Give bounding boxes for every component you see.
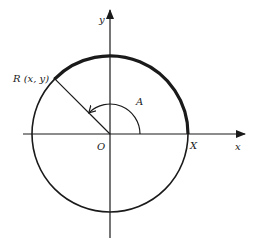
- x-intercept-label: X: [190, 141, 197, 151]
- y-axis-label: y: [99, 15, 105, 25]
- arc-x-to-r: [55, 56, 188, 134]
- origin-label: O: [97, 142, 105, 152]
- x-axis-label: x: [235, 142, 241, 152]
- angle-arc-a: [89, 104, 140, 134]
- angle-a-label: A: [136, 97, 143, 107]
- point-r-label: R (x, y): [13, 74, 49, 84]
- radius-line-or: [55, 79, 110, 134]
- unit-circle-diagram: [0, 0, 260, 247]
- point-r: [53, 77, 56, 80]
